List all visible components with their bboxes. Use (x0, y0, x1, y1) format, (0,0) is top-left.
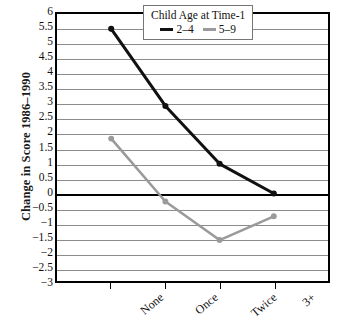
y-tick-label: 6 (7, 6, 53, 18)
data-point (108, 136, 114, 142)
y-tick-label: 0.5 (7, 172, 53, 184)
legend-title: Child Age at Time-1 (151, 9, 245, 22)
x-tick-label: 3+ (300, 291, 318, 308)
data-point (271, 213, 277, 219)
legend-entry: 2–4 (160, 23, 193, 35)
data-point (108, 26, 114, 32)
x-tick (275, 283, 276, 289)
y-tick-label: 0 (7, 187, 53, 199)
legend-label: 2–4 (176, 23, 193, 35)
legend-label: 5–9 (219, 23, 236, 35)
y-tick-label: −1.5 (7, 232, 53, 244)
x-tick (165, 283, 166, 289)
y-tick-label: 2 (7, 126, 53, 138)
data-point (217, 161, 223, 167)
y-tick-label: −0.5 (7, 202, 53, 214)
y-tick-label: 1.5 (7, 142, 53, 154)
y-tick-label: 4 (7, 66, 53, 78)
legend-entry: 5–9 (203, 23, 236, 35)
y-tick-label: 1 (7, 157, 53, 169)
plot-area (55, 12, 330, 283)
y-tick-label: −3 (7, 277, 53, 289)
legend-entries: 2–45–9 (151, 23, 245, 35)
y-tick-label: −1 (7, 217, 53, 229)
legend-swatch-icon (203, 28, 216, 31)
line-chart: Change in Score 1986–1990 65.554.543.532… (0, 0, 342, 323)
data-point (217, 237, 223, 243)
y-tick-label: 3 (7, 96, 53, 108)
series-layer (57, 14, 328, 281)
x-tick (220, 283, 221, 289)
legend-swatch-icon (160, 28, 173, 31)
data-point (162, 199, 168, 205)
x-tick-label: Once (193, 291, 220, 316)
series-line-5–9 (111, 139, 274, 240)
data-point (162, 103, 168, 109)
x-tick (110, 283, 111, 289)
y-tick-label: −2.5 (7, 262, 53, 274)
x-tick-label: Twice (249, 291, 279, 319)
y-tick-label: 3.5 (7, 81, 53, 93)
y-tick-label: 4.5 (7, 51, 53, 63)
y-tick-label: 5 (7, 36, 53, 48)
y-tick-label: 5.5 (7, 21, 53, 33)
data-point (271, 190, 277, 196)
y-tick-label: 2.5 (7, 111, 53, 123)
legend: Child Age at Time-1 2–45–9 (143, 5, 253, 40)
y-tick-label: −2 (7, 247, 53, 259)
x-tick-label: None (138, 291, 166, 317)
